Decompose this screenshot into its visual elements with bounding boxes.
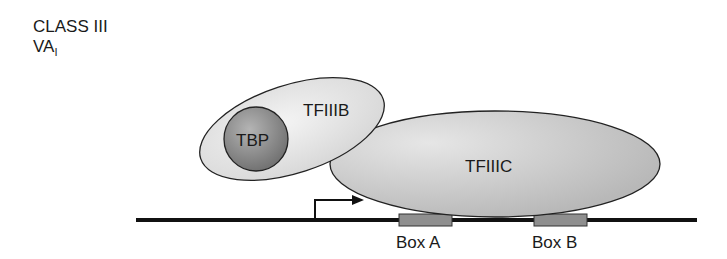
tfiiib-label: TFIIIB [303, 101, 349, 120]
box-b-label: Box B [532, 233, 577, 252]
box-a-element [399, 214, 452, 226]
transcription-start-arrow-icon [315, 195, 364, 219]
box-b-element [534, 214, 587, 226]
transcription-diagram: TFIIIB TBP TFIIIC Box A Box B [0, 0, 727, 259]
box-a-label: Box A [396, 233, 441, 252]
tbp-label: TBP [236, 131, 269, 150]
tfiiic-label: TFIIIC [465, 157, 512, 176]
